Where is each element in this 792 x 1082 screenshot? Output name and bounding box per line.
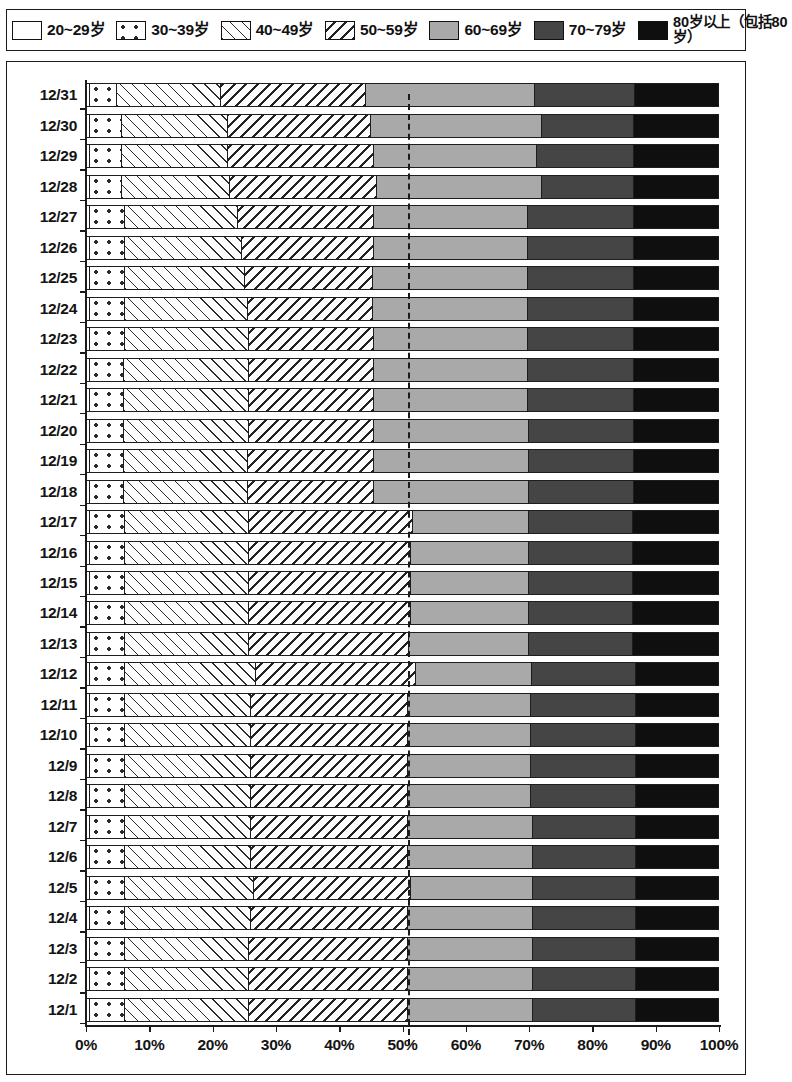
y-axis-tick [80, 901, 86, 902]
bar-segment-40-49 [125, 938, 249, 960]
bar-row [86, 388, 719, 412]
x-axis-label-0pct: 0% [51, 1036, 121, 1054]
bar-segment-70-79 [528, 237, 634, 259]
bar-segment-80-up [634, 450, 718, 472]
bar-segment-70-79 [529, 602, 633, 624]
bar-segment-70-79 [542, 115, 634, 137]
bar-segment-70-79 [529, 542, 633, 564]
bar-segment-80-up [636, 877, 718, 899]
y-axis-tick [80, 505, 86, 506]
y-axis-label-12-13: 12/13 [7, 635, 77, 653]
bar-segment-80-up [634, 267, 718, 289]
bar-segment-40-49 [125, 572, 249, 594]
bar-segment-30-39 [90, 420, 124, 442]
legend-swatch-60-69-icon [429, 21, 459, 40]
y-axis-tick [80, 474, 86, 475]
bar-segment-60-69 [408, 816, 534, 838]
y-axis-tick [80, 230, 86, 231]
legend-swatch-40-49-icon [221, 21, 251, 40]
chart-legend: 20~29岁 30~39岁 40~49岁 50~59岁 60~69岁 70~79… [6, 9, 746, 51]
bar-segment-70-79 [542, 176, 634, 198]
y-axis-label-12-27: 12/27 [7, 208, 77, 226]
bar-segment-60-69 [374, 450, 529, 472]
x-axis-label-40pct: 40% [304, 1036, 374, 1054]
bar-segment-80-up [634, 115, 718, 137]
bar-segment-80-up [636, 999, 718, 1021]
legend-label-60-69: 60~69岁 [464, 22, 522, 38]
bar-segment-70-79 [531, 694, 636, 716]
bar-segment-40-49 [124, 420, 249, 442]
legend-swatch-50-59-icon [325, 21, 355, 40]
legend-label-80-up: 80岁以上（包括80岁） [673, 15, 792, 45]
bar-segment-70-79 [537, 145, 634, 167]
legend-item-40-49: 40~49岁 [221, 21, 325, 40]
bar-segment-30-39 [90, 755, 125, 777]
bar-segment-50-59 [248, 481, 374, 503]
y-axis-tick [80, 657, 86, 658]
bar-segment-70-79 [528, 267, 634, 289]
y-axis-label-12-7: 12/7 [7, 818, 77, 836]
legend-item-60-69: 60~69岁 [429, 21, 533, 40]
bar-row [86, 236, 719, 260]
bar-segment-50-59 [248, 298, 374, 320]
bars-container [86, 80, 719, 1025]
bar-segment-80-up [636, 968, 718, 990]
bar-segment-30-39 [90, 542, 125, 564]
y-axis-label-12-18: 12/18 [7, 483, 77, 501]
y-axis-tick [80, 200, 86, 201]
y-axis-label-12-8: 12/8 [7, 787, 77, 805]
bar-segment-40-49 [125, 907, 251, 929]
y-axis-label-12-12: 12/12 [7, 665, 77, 683]
bar-segment-40-49 [125, 328, 249, 350]
legend-swatch-20-29-icon [12, 21, 42, 40]
legend-label-20-29: 20~29岁 [47, 22, 105, 38]
bar-segment-80-up [636, 724, 718, 746]
bar-segment-40-49 [125, 846, 251, 868]
bar-segment-80-up [636, 907, 718, 929]
bar-segment-70-79 [532, 663, 635, 685]
bar-segment-40-49 [122, 115, 229, 137]
y-axis-label-12-22: 12/22 [7, 361, 77, 379]
bar-segment-30-39 [90, 999, 125, 1021]
bar-row [86, 754, 719, 778]
bar-segment-50-59 [251, 755, 407, 777]
x-axis-label-10pct: 10% [114, 1036, 184, 1054]
legend-swatch-30-39-icon [116, 21, 146, 40]
bar-row [86, 205, 719, 229]
bar-segment-80-up [636, 755, 718, 777]
bar-segment-60-69 [374, 481, 529, 503]
y-axis-tick [80, 992, 86, 993]
bar-segment-30-39 [90, 267, 125, 289]
y-axis-label-12-2: 12/2 [7, 970, 77, 988]
y-axis-tick [80, 139, 86, 140]
bar-segment-60-69 [374, 389, 528, 411]
y-axis-label-12-1: 12/1 [7, 1001, 77, 1019]
bar-row [86, 83, 719, 107]
y-axis-label-12-3: 12/3 [7, 940, 77, 958]
bar-segment-40-49 [125, 999, 249, 1021]
bar-segment-70-79 [528, 359, 634, 381]
bar-segment-30-39 [90, 938, 125, 960]
bar-segment-60-69 [408, 999, 534, 1021]
bar-segment-80-up [633, 572, 718, 594]
legend-item-80-up: 80岁以上（包括80岁） [638, 15, 792, 45]
bar-segment-30-39 [90, 846, 125, 868]
bar-segment-50-59 [254, 877, 410, 899]
bar-segment-50-59 [256, 663, 416, 685]
y-axis-tick [80, 962, 86, 963]
bar-row [86, 632, 719, 656]
bar-row [86, 266, 719, 290]
x-axis-tick [276, 1025, 277, 1032]
x-axis-label-20pct: 20% [178, 1036, 248, 1054]
bar-segment-60-69 [374, 145, 537, 167]
bar-segment-50-59 [251, 846, 407, 868]
bar-segment-80-up [636, 785, 718, 807]
y-axis-tick [80, 748, 86, 749]
bar-segment-40-49 [124, 359, 249, 381]
bar-segment-50-59 [251, 785, 407, 807]
bar-segment-30-39 [90, 450, 124, 472]
bar-segment-50-59 [228, 115, 371, 137]
bar-segment-50-59 [249, 938, 407, 960]
y-axis-tick [80, 261, 86, 262]
bar-segment-60-69 [408, 907, 534, 929]
